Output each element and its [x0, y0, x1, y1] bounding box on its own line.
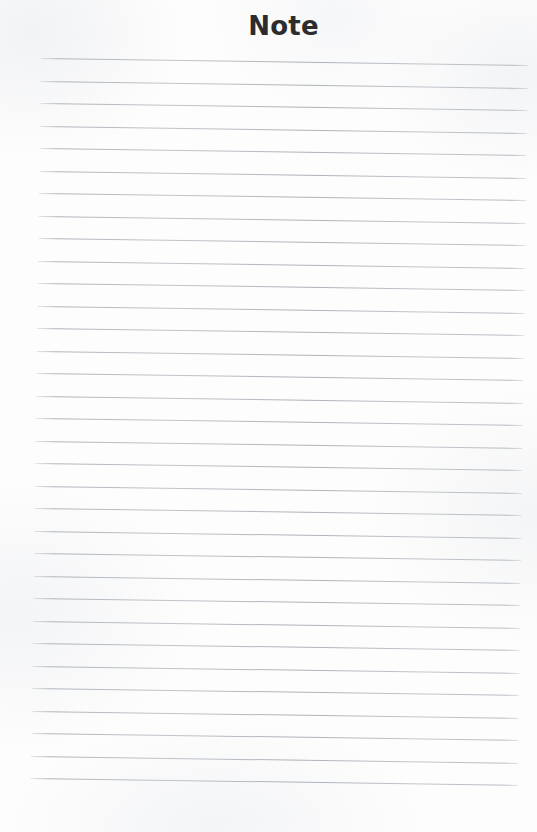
rule-line — [39, 215, 526, 223]
rule-line — [36, 395, 523, 403]
rule-line — [40, 148, 527, 156]
rule-line — [34, 553, 521, 561]
rule-line — [40, 103, 527, 111]
rule-line — [31, 755, 518, 763]
rule-line — [35, 463, 522, 471]
rule-line — [36, 373, 523, 381]
rule-line — [36, 418, 523, 426]
rule-line — [41, 80, 528, 88]
rule-line — [37, 305, 524, 313]
rule-line — [33, 643, 520, 651]
rule-line — [38, 260, 525, 268]
rule-line — [34, 575, 521, 583]
rule-line — [40, 125, 527, 133]
rule-line — [32, 710, 519, 718]
rule-line — [31, 733, 518, 741]
note-page: Note — [0, 0, 537, 832]
rule-line — [31, 778, 518, 786]
rule-line — [41, 58, 528, 66]
rule-line — [34, 530, 521, 538]
rule-line — [35, 485, 522, 493]
rule-line — [37, 350, 524, 358]
rule-line — [32, 665, 519, 673]
rule-line — [32, 688, 519, 696]
page-title: Note — [0, 11, 537, 41]
ruled-lines-area — [30, 56, 528, 803]
rule-line — [35, 440, 522, 448]
rule-line — [38, 238, 525, 246]
rule-line — [39, 170, 526, 178]
rule-line — [39, 193, 526, 201]
rule-line — [35, 508, 522, 516]
title-area: Note — [0, 0, 537, 52]
rule-line — [33, 598, 520, 606]
rule-line — [38, 283, 525, 291]
rule-line — [33, 620, 520, 628]
rule-line — [37, 328, 524, 336]
